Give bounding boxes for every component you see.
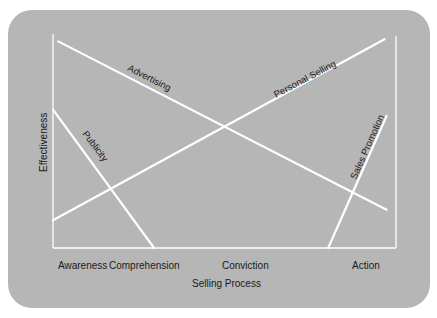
selling-process-diagram: Awareness Comprehension Conviction Actio… xyxy=(0,0,437,318)
category-label-conviction: Conviction xyxy=(222,260,269,271)
category-label-comprehension: Comprehension xyxy=(109,260,180,271)
y-axis-title: Effectiveness xyxy=(38,113,49,172)
series-line-publicity xyxy=(53,110,154,248)
x-axis-title: Selling Process xyxy=(192,278,261,289)
category-label-action: Action xyxy=(352,260,380,271)
series-label-personal-selling: Personal Selling xyxy=(272,58,338,100)
category-label-awareness: Awareness xyxy=(58,260,107,271)
series-label-sales-promotion: Sales Promotion xyxy=(348,113,386,181)
series-label-publicity: Publicity xyxy=(80,129,110,164)
